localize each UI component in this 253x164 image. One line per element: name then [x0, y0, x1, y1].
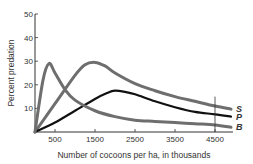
series-label-b: B — [236, 122, 243, 132]
x-tick-label: 1500 — [86, 135, 104, 144]
y-axis-title: Percent predation — [6, 39, 16, 106]
y-tick-label: 40 — [24, 34, 33, 43]
x-tick-label: 4500 — [206, 135, 224, 144]
y-tick-label: 10 — [24, 104, 33, 113]
y-tick-label: 50 — [24, 10, 33, 19]
axes — [35, 14, 233, 132]
series-line-p — [35, 91, 231, 132]
y-tick-label: 20 — [24, 81, 33, 90]
series-lines — [35, 62, 231, 132]
series-line-b — [35, 63, 231, 132]
y-tick-label: 30 — [24, 57, 33, 66]
x-tick-label: 3500 — [166, 135, 184, 144]
x-tick-label: 2500 — [126, 135, 144, 144]
series-label-p: P — [236, 112, 243, 122]
predation-chart: 10203040505001500250035004500 S P B Numb… — [0, 0, 253, 164]
x-axis-title: Number of cocoons per ha, in thousands — [57, 150, 210, 160]
series-line-s — [35, 62, 231, 132]
x-tick-label: 500 — [48, 135, 62, 144]
